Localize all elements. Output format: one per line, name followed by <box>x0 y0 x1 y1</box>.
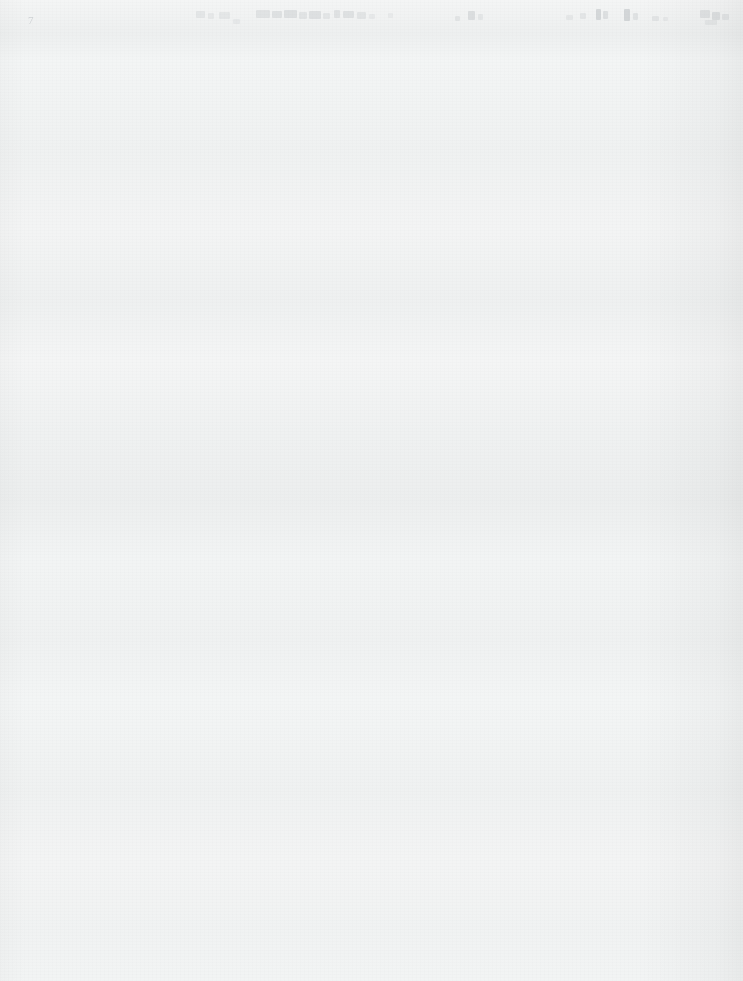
header-ink-fragment <box>652 16 659 21</box>
header-ink-fragment <box>712 12 720 20</box>
header-ink-fragment <box>663 17 668 21</box>
header-ink-fragment <box>357 12 366 19</box>
header-ink-fragment <box>633 13 638 20</box>
header-ink-fragment <box>455 16 460 21</box>
header-ink-fragment <box>369 14 375 19</box>
header-ink-fragment <box>272 11 282 18</box>
faded-running-header: 7 <box>0 0 743 36</box>
header-ink-fragment <box>233 19 240 24</box>
header-ink-fragment <box>705 20 717 25</box>
corner-page-mark: 7 <box>28 14 34 26</box>
header-ink-fragment <box>309 11 321 19</box>
header-ink-fragment <box>388 13 393 18</box>
header-ink-fragment <box>722 14 729 20</box>
paper-grain-texture <box>0 0 743 981</box>
header-ink-fragment <box>196 11 205 18</box>
header-ink-fragment <box>566 15 573 20</box>
header-ink-fragment <box>343 11 354 18</box>
scanned-page: 7 <box>0 0 743 981</box>
header-ink-fragment <box>256 10 270 18</box>
header-ink-fragment <box>219 12 230 19</box>
header-ink-fragment <box>478 14 483 20</box>
header-ink-fragment <box>603 11 608 19</box>
header-ink-fragment <box>208 13 214 19</box>
header-ink-fragment <box>334 10 340 18</box>
header-ink-fragment <box>468 11 475 20</box>
header-ink-fragment <box>323 13 330 19</box>
header-ink-fragment <box>700 10 710 18</box>
header-ink-fragment <box>580 13 586 19</box>
header-ink-fragment <box>284 10 297 18</box>
header-ink-fragment <box>299 12 307 19</box>
header-ink-fragment <box>624 9 630 21</box>
header-ink-fragment <box>596 9 601 20</box>
